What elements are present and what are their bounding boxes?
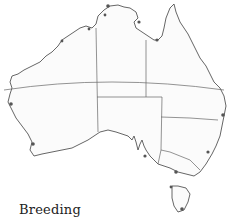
australia-map — [0, 0, 228, 219]
mainland-coastline — [8, 4, 226, 176]
breeding-site — [88, 28, 91, 31]
breeding-site — [174, 170, 178, 174]
breeding-site — [221, 113, 225, 117]
breeding-site — [9, 102, 13, 106]
map-legend-label: Breeding — [19, 202, 81, 217]
breeding-site — [104, 14, 107, 17]
breeding-site — [206, 150, 209, 153]
breeding-site — [155, 38, 158, 41]
breeding-site — [106, 4, 110, 8]
breeding-site — [170, 186, 173, 189]
breeding-site — [180, 207, 184, 211]
breeding-site — [61, 40, 64, 43]
breeding-site — [31, 142, 35, 146]
breeding-site — [143, 154, 146, 157]
breeding-site — [137, 20, 140, 23]
